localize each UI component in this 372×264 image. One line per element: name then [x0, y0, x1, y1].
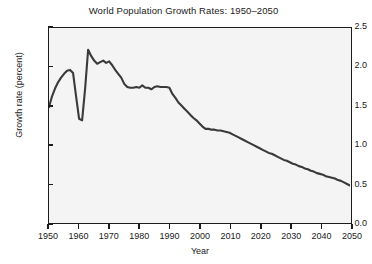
- x-tick-mark: [78, 224, 80, 229]
- x-tick-mark: [169, 224, 171, 229]
- x-tick-mark: [108, 224, 110, 229]
- y-tick-mark: [48, 66, 53, 68]
- x-tick-mark: [138, 224, 140, 229]
- y-tick-label: 0.5: [325, 179, 367, 189]
- chart-title: World Population Growth Rates: 1950–2050: [0, 5, 367, 16]
- data-line-svg: [49, 28, 350, 222]
- x-tick-mark: [290, 224, 292, 229]
- y-tick-mark: [48, 26, 53, 28]
- x-tick-mark: [230, 224, 232, 229]
- plot-area: [48, 27, 352, 224]
- y-tick-mark: [48, 105, 53, 107]
- x-tick-mark: [321, 224, 323, 229]
- x-tick-mark: [351, 224, 353, 229]
- y-tick-label: 1.5: [325, 100, 367, 110]
- x-tick-label: 2050: [330, 231, 372, 241]
- y-tick-mark: [48, 184, 53, 186]
- y-tick-label: 2.5: [325, 21, 367, 31]
- series-line-world-growth: [49, 50, 350, 186]
- x-tick-mark: [199, 224, 201, 229]
- y-tick-label: 0.0: [325, 218, 367, 228]
- x-tick-mark: [47, 224, 49, 229]
- x-tick-mark: [260, 224, 262, 229]
- y-axis-label: Growth rate (percent): [14, 20, 24, 170]
- y-tick-mark: [48, 144, 53, 146]
- y-tick-label: 1.0: [325, 139, 367, 149]
- y-tick-label: 2.0: [325, 60, 367, 70]
- x-axis-label: Year: [48, 246, 352, 256]
